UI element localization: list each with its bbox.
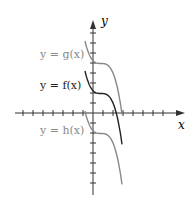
y-axis-arrow-icon: [90, 20, 96, 29]
label-f: y = f(x): [40, 79, 81, 92]
graph-figure: [0, 0, 194, 207]
label-h: y = h(x): [40, 124, 84, 137]
y-axis-label: y: [101, 14, 108, 28]
x-axis-arrow-icon: [176, 110, 185, 116]
label-g: y = g(x): [40, 48, 84, 61]
x-axis-label: x: [178, 118, 185, 132]
